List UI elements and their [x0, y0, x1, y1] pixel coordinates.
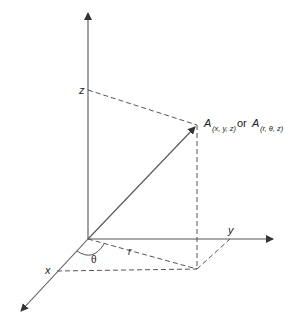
position-vector: [88, 127, 195, 239]
x-label: x: [44, 264, 51, 276]
theta-label: θ: [91, 254, 97, 265]
svg-text:or: or: [237, 117, 247, 129]
coordinate-diagram: z y x r θ A (x, y, z) or A (r, θ, z): [0, 0, 294, 321]
z-projection: [88, 90, 197, 125]
y-projection: [197, 239, 230, 269]
diagram-canvas: z y x r θ A (x, y, z) or A (r, θ, z): [0, 0, 294, 321]
z-label: z: [78, 84, 85, 96]
x-projection: [57, 269, 197, 271]
x-axis: [21, 239, 88, 311]
r-line: [88, 239, 197, 269]
r-label: r: [128, 246, 132, 257]
svg-text:(r, θ, z): (r, θ, z): [260, 124, 284, 133]
y-label: y: [227, 224, 235, 236]
point-a-label: A (x, y, z) or A (r, θ, z): [203, 117, 284, 133]
svg-text:A: A: [203, 117, 211, 129]
svg-text:(x, y, z): (x, y, z): [212, 124, 237, 133]
svg-text:A: A: [251, 117, 259, 129]
